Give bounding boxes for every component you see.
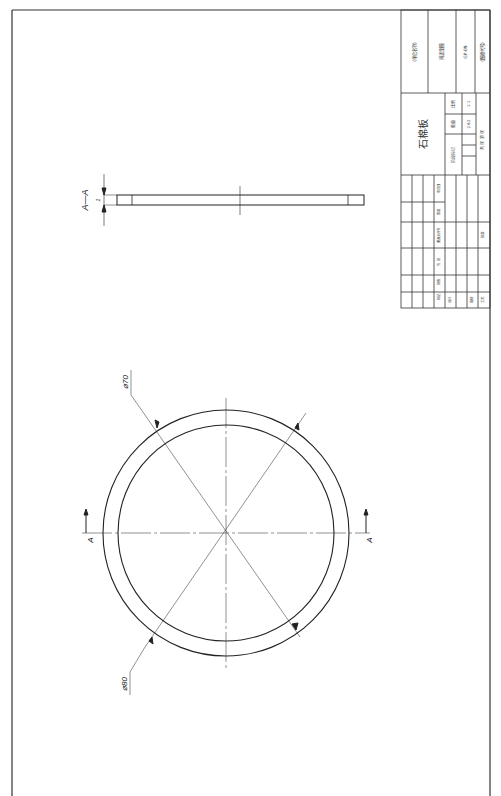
- svg-text:年月日: 年月日: [436, 184, 441, 193]
- front-view: [82, 370, 370, 695]
- section-view: [102, 174, 364, 226]
- svg-text:审核: 审核: [469, 296, 474, 303]
- svg-text:签名: 签名: [436, 209, 441, 215]
- svg-text:批准: 批准: [480, 231, 485, 238]
- svg-text:比例: 比例: [450, 100, 456, 108]
- svg-text:处数: 处数: [436, 278, 441, 285]
- svg-text:(图样代号): (图样代号): [479, 42, 486, 62]
- thickness-dimension: 1: [95, 198, 101, 201]
- svg-text:标记: 标记: [436, 293, 441, 300]
- svg-text:(单位名称): (单位名称): [411, 42, 418, 62]
- inner-diameter-dimension: ⌀70: [121, 375, 130, 389]
- section-marker-left: A: [86, 537, 95, 543]
- outer-diameter-dimension: ⌀80: [120, 677, 129, 691]
- svg-text:分 区: 分 区: [436, 257, 441, 265]
- svg-text:设计: 设计: [447, 296, 452, 303]
- svg-text:工艺: 工艺: [480, 296, 485, 303]
- svg-text:重量: 重量: [450, 120, 456, 128]
- section-marker-right: A: [365, 537, 374, 543]
- svg-text:阀盖垫圈: 阀盖垫圈: [438, 43, 445, 60]
- svg-text:更改文件号: 更改文件号: [436, 227, 441, 243]
- svg-text:2.62: 2.62: [466, 119, 471, 128]
- engineering-drawing: (单位名称) 阀盖垫圈 GP-09 (图样代号) 石棉板 比例 1:1 重量 2…: [0, 0, 501, 796]
- svg-text:GP-09: GP-09: [463, 45, 468, 59]
- svg-text:共 张 第 张: 共 张 第 张: [479, 130, 485, 150]
- svg-text:阶段标记: 阶段标记: [450, 147, 456, 163]
- svg-text:石棉板: 石棉板: [417, 119, 429, 149]
- section-label: A—A: [80, 189, 90, 211]
- svg-text:1:1: 1:1: [466, 100, 471, 107]
